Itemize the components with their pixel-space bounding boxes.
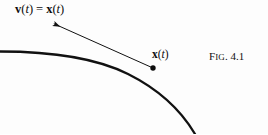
figure-caption: FIG. 4.1 bbox=[209, 50, 244, 62]
caption-smallcaps: IG bbox=[215, 52, 225, 62]
derivative-paren-close: ) bbox=[60, 2, 64, 16]
figure-4-1: v(t)=˙x(t) x(t) FIG. 4.1 bbox=[0, 0, 268, 134]
position-paren-close: ) bbox=[165, 48, 169, 60]
tangency-point-marker bbox=[150, 65, 155, 70]
overdot-accent-icon: ˙ bbox=[47, 0, 51, 10]
velocity-vector-label: v(t)=˙x(t) bbox=[15, 3, 64, 16]
figure-drawing-canvas bbox=[0, 0, 268, 134]
equals-sign: = bbox=[33, 2, 46, 16]
x-dot-symbol: ˙x bbox=[46, 3, 52, 16]
velocity-vector-arrow bbox=[54, 24, 153, 68]
caption-number: . 4.1 bbox=[225, 50, 244, 62]
position-vector-label: x(t) bbox=[152, 49, 169, 61]
trajectory-curve bbox=[0, 52, 195, 135]
